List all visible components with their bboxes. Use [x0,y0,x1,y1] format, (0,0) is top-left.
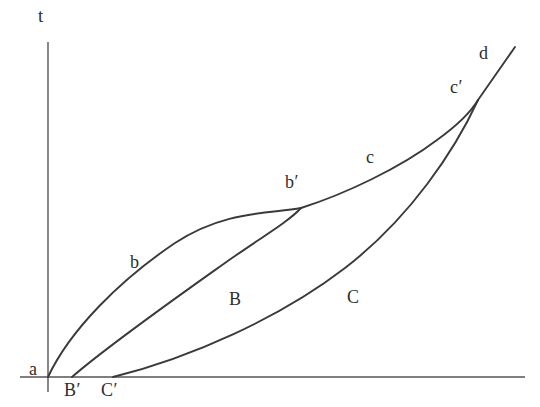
diagram-canvas [0,0,540,407]
spacetime-curve-diagram: t a B′ C′ b b′ c c′ d B C [0,0,540,407]
curve-label-c: c [366,148,375,166]
curve-b [48,208,301,377]
point-label-B-prime: B′ [64,381,81,399]
curve-label-b: b [130,253,140,271]
axis-label-t: t [38,6,44,25]
curve-label-C-upper: C [347,288,360,306]
point-label-b-prime: b′ [285,173,299,191]
curve-B-upper [72,208,301,377]
point-label-c-prime: c′ [450,78,463,96]
curve-label-d: d [479,44,489,62]
curve-C-upper [113,100,478,377]
point-label-a: a [29,360,38,378]
point-label-C-prime: C′ [101,381,118,399]
curve-label-B-upper: B [229,290,242,308]
curve-c [301,100,478,208]
